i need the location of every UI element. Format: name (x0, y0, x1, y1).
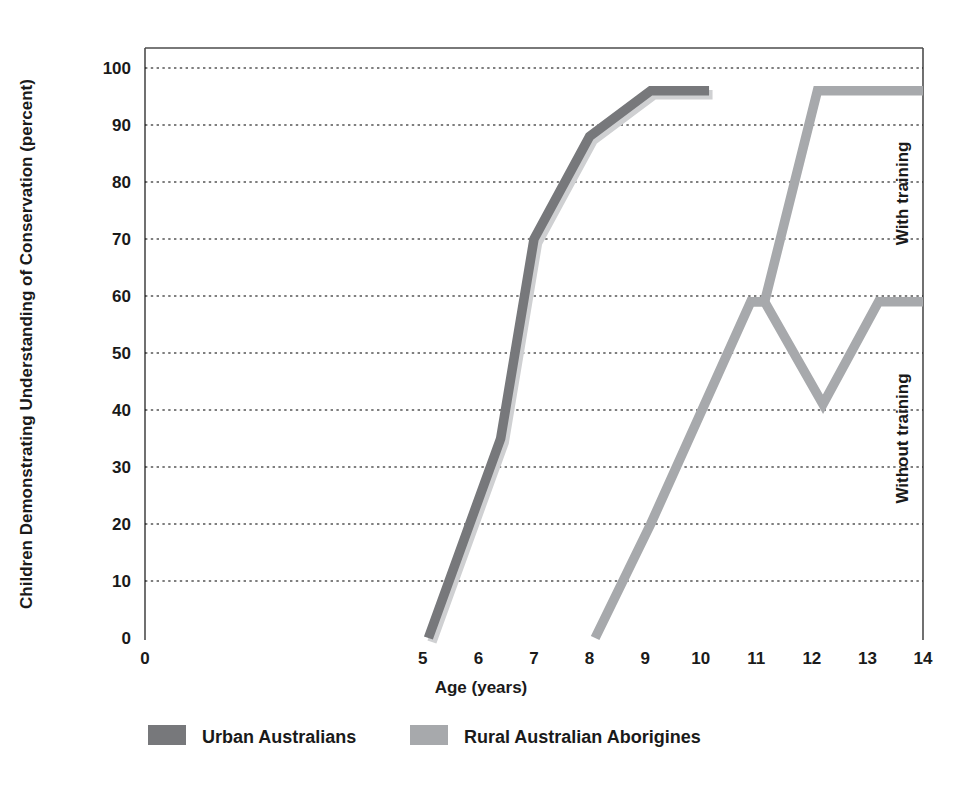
y-tick-label: 90 (112, 116, 131, 135)
y-tick-label: 20 (112, 515, 131, 534)
x-tick-label: 13 (858, 649, 877, 668)
legend: Urban AustraliansRural Australian Aborig… (148, 725, 701, 747)
y-tick-label: 10 (112, 572, 131, 591)
legend-item: Urban Australians (148, 725, 356, 747)
x-tick-label: 7 (529, 649, 538, 668)
legend-label: Rural Australian Aborigines (464, 727, 701, 747)
y-tick-label: 70 (112, 230, 131, 249)
y-tick-label: 30 (112, 458, 131, 477)
y-tick-label: 80 (112, 173, 131, 192)
x-tick-label: 9 (640, 649, 649, 668)
y-axis-title: Children Demonstrating Understanding of … (17, 79, 36, 609)
chart-container: 0102030405060708090100 0567891011121314 … (0, 0, 970, 801)
x-axis-title: Age (years) (435, 678, 528, 697)
y-tick-label: 40 (112, 401, 131, 420)
x-tick-label: 14 (914, 649, 933, 668)
plot-annotation: With training (893, 142, 912, 246)
x-tick-label: 5 (418, 649, 427, 668)
plot-annotation: Without training (893, 373, 912, 503)
legend-label: Urban Australians (202, 727, 356, 747)
x-tick-label: 8 (585, 649, 594, 668)
y-tick-label: 100 (103, 59, 131, 78)
x-tick-label: 10 (691, 649, 710, 668)
y-tick-label: 60 (112, 287, 131, 306)
x-tick-label: 6 (474, 649, 483, 668)
x-tick-label: 12 (802, 649, 821, 668)
x-tick-label: 0 (140, 649, 149, 668)
y-tick-label: 0 (122, 629, 131, 648)
y-tick-label: 50 (112, 344, 131, 363)
conservation-line-chart: 0102030405060708090100 0567891011121314 … (0, 0, 970, 801)
legend-swatch (148, 725, 186, 745)
legend-swatch (410, 725, 448, 745)
x-tick-label: 11 (747, 649, 765, 668)
